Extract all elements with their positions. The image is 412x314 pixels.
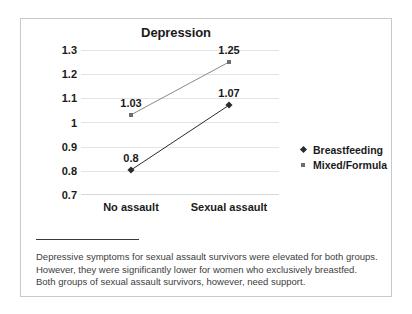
data-label: 0.8	[123, 152, 138, 164]
series-lines	[81, 50, 279, 195]
data-point-mixedformula-sexual-assault	[227, 60, 231, 64]
plot-area: 0.8 1.07 1.03 1.25	[81, 50, 279, 195]
legend-item-breastfeeding: Breastfeeding	[297, 142, 387, 157]
data-label: 1.25	[218, 44, 239, 56]
diamond-marker-icon	[297, 147, 309, 152]
chart-title: Depression	[61, 25, 291, 40]
data-label: 1.07	[218, 87, 239, 99]
chart-legend: Breastfeeding Mixed/Formula	[297, 142, 387, 172]
square-marker-icon	[297, 163, 309, 167]
legend-label: Mixed/Formula	[313, 159, 387, 171]
y-tick-label: 1.3	[43, 44, 77, 56]
y-axis-ticks: 1.3 1.2 1.1 1 0.9 0.8 0.7	[39, 50, 77, 195]
x-tick-label-no-assault: No assault	[103, 201, 159, 213]
figure-frame: Depression 1.3 1.2 1.1 1 0.9 0.8 0.7	[20, 18, 392, 297]
legend-label: Breastfeeding	[313, 144, 383, 156]
data-label: 1.03	[120, 97, 141, 109]
data-point-mixedformula-no-assault	[129, 113, 133, 117]
y-tick-label: 1.1	[43, 92, 77, 104]
x-tick-label-sexual-assault: Sexual assault	[191, 201, 267, 213]
figure-caption: Depressive symptoms for sexual assault s…	[36, 251, 378, 289]
y-tick-label: 0.8	[43, 165, 77, 177]
caption-divider	[36, 239, 139, 240]
y-tick-label: 0.7	[43, 189, 77, 201]
legend-item-mixed-formula: Mixed/Formula	[297, 157, 387, 172]
chart-region: Depression 1.3 1.2 1.1 1 0.9 0.8 0.7	[21, 19, 391, 222]
y-tick-label: 1	[43, 117, 77, 129]
y-tick-label: 1.2	[43, 68, 77, 80]
y-tick-label: 0.9	[43, 141, 77, 153]
